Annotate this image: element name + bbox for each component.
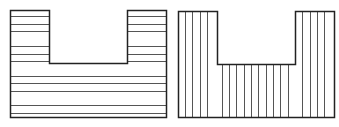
- shape-outline: [179, 12, 335, 118]
- diagram-canvas: [0, 0, 339, 127]
- u-shape-vertical-hatch: [179, 11, 335, 118]
- hatched-u-shapes-diagram: [0, 0, 339, 127]
- shape-outline: [11, 11, 167, 118]
- u-shape-horizontal-hatch: [10, 11, 167, 118]
